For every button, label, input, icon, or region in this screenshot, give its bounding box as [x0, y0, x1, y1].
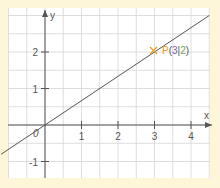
coordinate-plot: x y 123421-1 0 P(3|2)	[0, 0, 220, 188]
x-tick-label: 2	[115, 131, 121, 142]
y-axis-label: y	[50, 10, 55, 21]
x-axis-label: x	[204, 110, 209, 121]
x-tick-label: 3	[152, 131, 158, 142]
y-tick-label: -1	[29, 157, 38, 168]
x-tick-label: 4	[188, 131, 194, 142]
x-tick-label: 1	[79, 131, 85, 142]
y-tick-label: 1	[32, 84, 38, 95]
point-p-label: P(3|2)	[162, 45, 189, 56]
y-tick-label: 2	[32, 47, 38, 58]
